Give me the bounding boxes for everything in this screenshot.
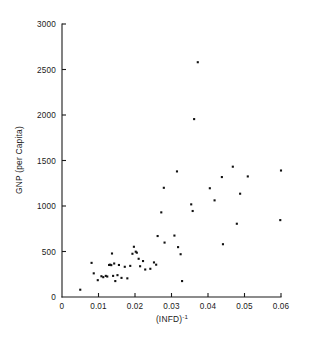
data-point [102, 276, 104, 278]
data-point [214, 199, 216, 201]
data-point [139, 265, 141, 267]
data-point [138, 258, 140, 260]
data-point [131, 253, 133, 255]
data-point [100, 275, 102, 277]
data-point [157, 235, 159, 237]
data-point [155, 264, 157, 266]
y-axis-label: GNP (per Capita) [14, 126, 24, 194]
axes-group [62, 24, 281, 297]
data-point [163, 187, 165, 189]
y-tick-label: 1500 [37, 157, 56, 166]
data-point [232, 166, 234, 168]
x-tick-label: 0.01 [90, 302, 107, 311]
data-point [177, 246, 179, 248]
x-tick-label: 0.05 [236, 302, 253, 311]
x-tick-label: 0 [60, 302, 65, 311]
data-point [124, 266, 126, 268]
data-point [192, 210, 194, 212]
data-point [93, 272, 95, 274]
data-point [120, 277, 122, 279]
x-axis-label: (INFD)-1 [156, 313, 189, 324]
y-tick-label: 500 [42, 248, 57, 257]
data-point [190, 203, 192, 205]
data-point [79, 289, 81, 291]
ticks-group [62, 24, 281, 297]
data-point [236, 223, 238, 225]
x-tick-label: 0.06 [273, 302, 290, 311]
data-point [280, 169, 282, 171]
data-point [221, 176, 223, 178]
data-point [153, 261, 155, 263]
y-tick-label: 1000 [37, 202, 56, 211]
data-point [111, 252, 113, 254]
data-point [118, 264, 120, 266]
data-point [133, 246, 135, 248]
data-point [113, 262, 115, 264]
data-point [112, 275, 114, 277]
data-point [173, 235, 175, 237]
data-point [142, 260, 144, 262]
y-tick-label: 2500 [37, 66, 56, 75]
data-point [129, 265, 131, 267]
data-point [279, 219, 281, 221]
data-point [181, 280, 183, 282]
data-point [136, 252, 138, 254]
data-point [209, 187, 211, 189]
data-point [247, 175, 249, 177]
data-point [149, 268, 151, 270]
x-tick-label: 0.03 [163, 302, 180, 311]
data-point [197, 61, 199, 63]
y-tick-label: 2000 [37, 111, 56, 120]
data-points-group [79, 61, 282, 291]
y-tick-label: 0 [51, 293, 56, 302]
x-tick-label: 0.04 [200, 302, 217, 311]
data-point [180, 253, 182, 255]
data-point [116, 274, 118, 276]
data-point [176, 170, 178, 172]
plot-canvas: 05001000150020002500300000.010.020.030.0… [0, 0, 309, 347]
data-point [164, 242, 166, 244]
data-point [144, 268, 146, 270]
data-point [160, 211, 162, 213]
tick-labels-group: 05001000150020002500300000.010.020.030.0… [37, 20, 290, 311]
data-point [106, 275, 108, 277]
data-point [91, 262, 93, 264]
data-point [239, 193, 241, 195]
data-point [114, 280, 116, 282]
y-tick-label: 3000 [37, 20, 56, 29]
data-point [193, 118, 195, 120]
x-tick-label: 0.02 [127, 302, 144, 311]
data-point [110, 264, 112, 266]
data-point [97, 279, 99, 281]
scatter-plot-figure: 05001000150020002500300000.010.020.030.0… [0, 0, 309, 347]
data-point [126, 277, 128, 279]
data-point [222, 243, 224, 245]
